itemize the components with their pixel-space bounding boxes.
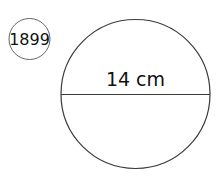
problem-number-badge: 1899 [9, 19, 50, 60]
diagram-canvas: 1899 14 cm [0, 0, 216, 192]
diameter-label: 14 cm [106, 68, 165, 90]
circle-figure: 14 cm [61, 20, 210, 169]
problem-number: 1899 [9, 30, 50, 49]
